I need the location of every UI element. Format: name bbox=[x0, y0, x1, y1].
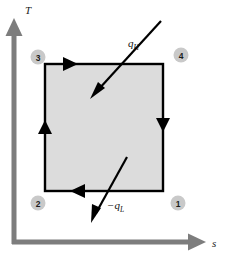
heat-rejected-prefix: − bbox=[107, 199, 114, 211]
state-point-3-label: 3 bbox=[36, 53, 41, 63]
state-point-2: 2 bbox=[31, 196, 46, 211]
state-point-2-label: 2 bbox=[36, 199, 41, 209]
state-point-1-label: 1 bbox=[176, 199, 181, 209]
state-point-4-label: 4 bbox=[179, 51, 184, 61]
state-point-1: 1 bbox=[171, 196, 186, 211]
temperature-axis-arrowhead bbox=[6, 18, 23, 36]
heat-input-subscript: H bbox=[133, 43, 140, 52]
heat-rejected-label: −qL bbox=[107, 199, 124, 214]
entropy-axis-label: s bbox=[212, 237, 216, 249]
heat-rejected-subscript: L bbox=[119, 205, 124, 214]
ts-diagram-figure: T s qH bbox=[0, 0, 226, 260]
state-point-3: 3 bbox=[31, 50, 46, 65]
state-point-4: 4 bbox=[174, 48, 189, 63]
heat-input-label: qH bbox=[128, 37, 140, 52]
temperature-axis-label: T bbox=[25, 4, 32, 16]
entropy-axis-arrowhead bbox=[188, 234, 206, 251]
